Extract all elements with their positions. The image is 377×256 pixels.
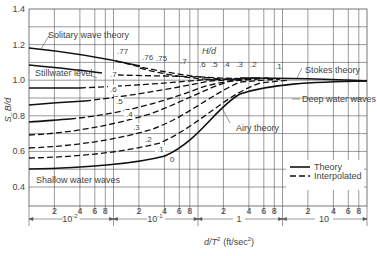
deep-water-label: Deep water waves xyxy=(302,94,377,104)
curve-04-solid xyxy=(29,119,70,122)
wave-height-chart: 1.4 1.2 1.0 0.8 0.6 0.4 S_B/d 2 4 6 8 2 … xyxy=(0,0,377,256)
curve-label: .5 xyxy=(116,97,123,106)
curve-label: .7 xyxy=(110,70,117,79)
x-tick: 6 xyxy=(261,206,266,216)
curve-07-dashed xyxy=(118,75,250,79)
curve-077 xyxy=(116,61,240,80)
x-tick: 6 xyxy=(92,206,97,216)
y-axis-label: S_B/d xyxy=(3,97,13,123)
curve-label: .6 xyxy=(110,85,117,94)
x-tick: 2 xyxy=(136,206,141,216)
curve-label: .76 xyxy=(142,53,154,62)
curve-label: .1 xyxy=(157,145,164,154)
decade-label: 10 xyxy=(319,214,329,224)
curve-label: .1 xyxy=(275,62,282,71)
x-tick: 6 xyxy=(177,206,182,216)
x-tick: 8 xyxy=(187,206,192,216)
x-tick: 8 xyxy=(356,206,361,216)
y-tick: 0.4 xyxy=(12,182,25,192)
x-tick: 6 xyxy=(346,206,351,216)
airy-label: Airy theory xyxy=(236,123,280,133)
curve-label: .6 xyxy=(199,60,206,69)
curve-label: .2 xyxy=(145,135,152,144)
curve-02 xyxy=(29,79,280,148)
curve-label: .5 xyxy=(211,60,218,69)
y-tick: 1.0 xyxy=(12,75,25,85)
y-tick: 0.6 xyxy=(12,146,25,156)
x-tick: 8 xyxy=(272,206,277,216)
curve-04-dashed xyxy=(70,78,268,119)
decade-label: 10-1 xyxy=(147,213,163,224)
legend: Theory Interpolated xyxy=(286,160,364,190)
curve-label: .3 xyxy=(133,123,140,132)
shallow-water-label: Shallow water waves xyxy=(36,175,121,185)
curve-label: .77 xyxy=(117,47,129,56)
curve-label: .4 xyxy=(223,60,230,69)
x-tick: 2 xyxy=(305,206,310,216)
stillwater-label: Stillwater level xyxy=(35,68,93,78)
curve-label: 0 xyxy=(170,155,175,164)
decade-label: 1 xyxy=(236,214,241,224)
legend-interpolated: Interpolated xyxy=(314,171,362,181)
curve-label: .3 xyxy=(236,60,243,69)
x-tick: 8 xyxy=(103,206,108,216)
x-axis-label: d/T2(ft/sec2) xyxy=(204,236,254,247)
x-tick: 2 xyxy=(52,206,57,216)
curve-label: .75 xyxy=(156,54,168,63)
y-tick: 0.8 xyxy=(12,111,25,121)
y-tick: 1.2 xyxy=(12,40,25,50)
curve-label: .4 xyxy=(126,110,133,119)
x-tick: 4 xyxy=(246,206,251,216)
curve-label: .2 xyxy=(250,60,257,69)
x-tick: 2 xyxy=(221,206,226,216)
curve-05-solid xyxy=(29,101,85,105)
stokes-label: Stokes theory xyxy=(305,65,361,75)
solitary-wave-label: Solitary wave theory xyxy=(48,30,130,40)
y-axis-ticks: 1.4 1.2 1.0 0.8 0.6 0.4 xyxy=(12,4,25,192)
y-tick: 1.4 xyxy=(12,4,25,14)
curve-label: .7 xyxy=(180,57,187,66)
x-axis-ticks: 2 4 6 8 2 4 6 8 2 4 6 8 2 4 6 8 xyxy=(52,206,361,216)
x-tick: 4 xyxy=(331,206,336,216)
hd-label: H/d xyxy=(202,46,217,56)
